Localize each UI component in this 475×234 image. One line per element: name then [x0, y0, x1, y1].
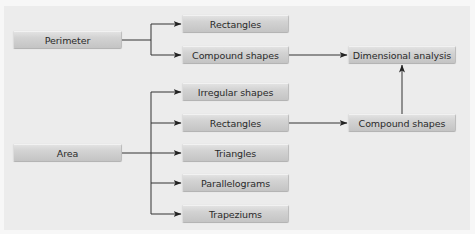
node-label: Dimensional analysis	[353, 50, 451, 61]
node-label: Triangles	[215, 148, 256, 159]
node-irregular-shapes: Irregular shapes	[182, 83, 289, 101]
node-label: Compound shapes	[359, 118, 446, 129]
node-perimeter-compound-shapes: Compound shapes	[182, 46, 289, 64]
node-label: Rectangles	[210, 118, 261, 129]
node-label: Compound shapes	[192, 50, 279, 61]
node-triangles: Triangles	[182, 144, 289, 162]
node-label: Trapeziums	[209, 209, 262, 220]
node-area-rectangles: Rectangles	[182, 114, 289, 132]
node-perimeter-rectangles: Rectangles	[182, 15, 289, 33]
node-label: Parallelograms	[201, 178, 270, 189]
node-label: Irregular shapes	[198, 87, 274, 98]
node-area: Area	[13, 144, 122, 162]
node-label: Perimeter	[45, 35, 90, 46]
node-area-compound-shapes: Compound shapes	[348, 114, 456, 132]
node-dimensional-analysis: Dimensional analysis	[348, 46, 456, 64]
node-perimeter: Perimeter	[13, 31, 122, 49]
node-label: Rectangles	[210, 19, 261, 30]
node-trapeziums: Trapeziums	[182, 205, 289, 223]
node-label: Area	[57, 148, 78, 159]
node-parallelograms: Parallelograms	[182, 174, 289, 192]
